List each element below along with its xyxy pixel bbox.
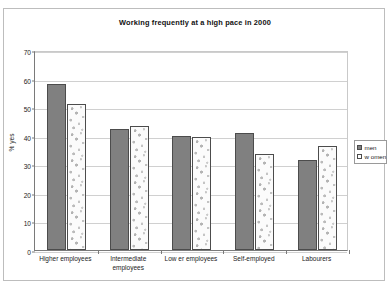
plot-area: 010203040506070 [34, 51, 348, 251]
y-tick-mark [32, 252, 35, 253]
bar-group [35, 52, 98, 250]
bar-women [67, 104, 86, 250]
chart-figure: Working frequently at a high pace in 200… [3, 8, 385, 281]
bar-men [235, 133, 254, 250]
y-tick-label: 20 [24, 191, 31, 198]
x-axis-category-label: Labourers [285, 254, 348, 263]
x-axis-category-label: Self-employed [222, 254, 285, 263]
chart-title: Working frequently at a high pace in 200… [4, 18, 386, 27]
legend-item-women: w omen [357, 152, 384, 161]
legend-label-women: w omen [365, 153, 387, 160]
legend-swatch-women-icon [357, 154, 362, 159]
x-axis-category-line: Higher employees [34, 254, 97, 263]
y-axis-label: % yes [8, 123, 15, 163]
y-tick-label: 10 [24, 220, 31, 227]
x-axis-category-line: employees [97, 263, 160, 272]
bar-women [192, 137, 211, 250]
y-tick-label: 50 [24, 106, 31, 113]
bar-women [255, 154, 274, 250]
x-axis-category-line: Self-employed [222, 254, 285, 263]
legend-swatch-men-icon [357, 145, 362, 150]
bar-men [298, 160, 317, 250]
x-axis-category-line: Low er employees [160, 254, 223, 263]
bar-group [223, 52, 286, 250]
bar-group [286, 52, 349, 250]
bar-men [47, 84, 66, 250]
x-axis-category-label: Low er employees [160, 254, 223, 263]
x-axis-category-label: Higher employees [34, 254, 97, 263]
bar-group [98, 52, 161, 250]
y-tick-label: 40 [24, 134, 31, 141]
legend-label-men: men [365, 144, 377, 151]
y-tick-label: 30 [24, 163, 31, 170]
bar-women [318, 146, 337, 250]
bar-series-container [35, 52, 347, 250]
x-axis-category-label: Intermediateemployees [97, 254, 160, 272]
x-axis-category-line: Intermediate [97, 254, 160, 263]
y-tick-label: 70 [24, 49, 31, 56]
bar-men [110, 129, 129, 250]
bar-men [172, 136, 191, 250]
y-tick-label: 60 [24, 77, 31, 84]
legend-item-men: men [357, 143, 384, 152]
x-tick-mark [349, 250, 350, 254]
y-tick-label: 0 [27, 249, 31, 256]
bar-group [161, 52, 224, 250]
gridline [35, 252, 347, 253]
x-axis-labels: Higher employeesIntermediateemployeesLow… [34, 254, 348, 282]
x-axis-category-line: Labourers [285, 254, 348, 263]
bar-women [130, 126, 149, 250]
chart-legend: men w omen [354, 140, 387, 164]
